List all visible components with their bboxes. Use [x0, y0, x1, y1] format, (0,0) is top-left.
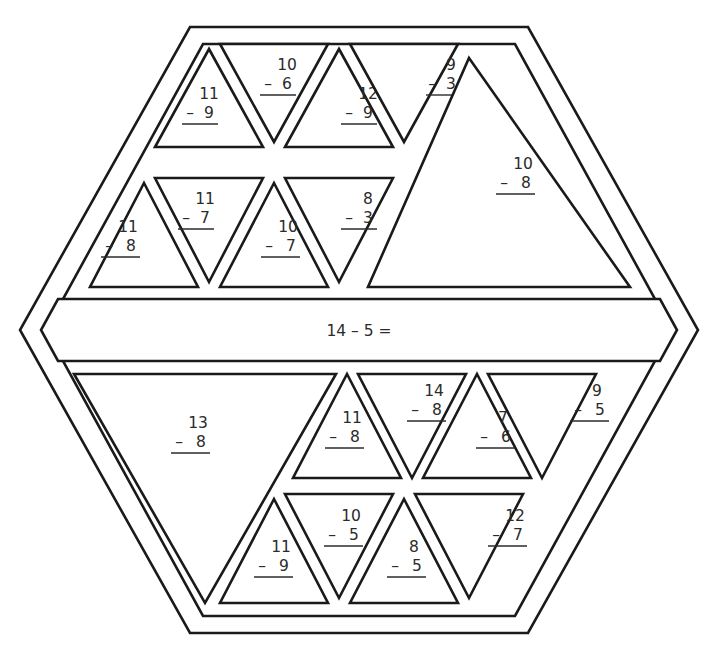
- tile-t8-subtrahend: 3: [363, 209, 373, 227]
- tile-t6-subtrahend: 7: [200, 209, 210, 227]
- tile-t1-minuend: 11: [199, 85, 219, 103]
- tile-t7-operator: –: [265, 237, 273, 255]
- tile-t3-subtrahend: 9: [363, 104, 373, 122]
- tile-t12-subtrahend: 8: [432, 401, 442, 419]
- tile-t17-operator: –: [391, 557, 399, 575]
- tile-t14-subtrahend: 5: [595, 401, 605, 419]
- tile-t10-subtrahend: 8: [196, 433, 206, 451]
- tile-t2-operator: –: [264, 75, 272, 93]
- tile-t15-minuend: 11: [271, 538, 291, 556]
- tile-t11-minuend: 11: [342, 409, 362, 427]
- hexagon-puzzle-canvas: 14 – 5 = 11 – 9 10 – 6 12 – 9: [0, 0, 718, 663]
- worksheet-page: 14 – 5 = 11 – 9 10 – 6 12 – 9: [0, 0, 718, 663]
- tile-t10-minuend: 13: [188, 414, 208, 432]
- tile-t18-subtrahend: 7: [513, 526, 523, 544]
- tile-t15-subtrahend: 9: [279, 557, 289, 575]
- tile-t5-subtrahend: 8: [126, 237, 136, 255]
- tile-t15-operator: –: [258, 557, 266, 575]
- band-expression: 14 – 5 =: [326, 322, 391, 340]
- tile-t11-operator: –: [329, 428, 337, 446]
- tile-t8-operator: –: [345, 209, 353, 227]
- tile-t1-subtrahend: 9: [204, 104, 214, 122]
- tile-t16-minuend: 10: [341, 507, 361, 525]
- tile-t18-operator: –: [492, 526, 500, 544]
- tile-t5-operator: –: [105, 237, 113, 255]
- tile-t6-operator: –: [182, 209, 190, 227]
- tile-t9-subtrahend: 8: [521, 174, 531, 192]
- tile-t14-minuend: 9: [592, 382, 602, 400]
- band-row: 14 – 5 =: [41, 299, 677, 361]
- tile-t2-minuend: 10: [277, 56, 297, 74]
- tile-t5-minuend: 11: [118, 218, 138, 236]
- tile-t4-operator: –: [428, 75, 436, 93]
- tile-t7-subtrahend: 7: [286, 237, 296, 255]
- tile-t12-minuend: 14: [424, 382, 444, 400]
- tile-t3-operator: –: [345, 104, 353, 122]
- tile-t4-minuend: 9: [446, 56, 456, 74]
- tile-t17-minuend: 8: [409, 538, 419, 556]
- tile-t13-operator: –: [480, 428, 488, 446]
- tile-t11-subtrahend: 8: [350, 428, 360, 446]
- tile-t13-subtrahend: 6: [501, 428, 511, 446]
- tile-t9-operator: –: [500, 174, 508, 192]
- tile-t12-operator: –: [411, 401, 419, 419]
- tile-t10-operator: –: [175, 433, 183, 451]
- tile-t8-minuend: 8: [363, 190, 373, 208]
- tile-t16-subtrahend: 5: [349, 526, 359, 544]
- tile-t9-minuend: 10: [513, 155, 533, 173]
- tile-t16-operator: –: [328, 526, 336, 544]
- tile-t18-minuend: 12: [505, 507, 525, 525]
- tile-t6-minuend: 11: [195, 190, 215, 208]
- tile-t1-operator: –: [186, 104, 194, 122]
- tile-t7-minuend: 10: [278, 218, 298, 236]
- tile-t14-operator: –: [574, 401, 582, 419]
- tile-t17-subtrahend: 5: [412, 557, 422, 575]
- tile-t2-subtrahend: 6: [282, 75, 292, 93]
